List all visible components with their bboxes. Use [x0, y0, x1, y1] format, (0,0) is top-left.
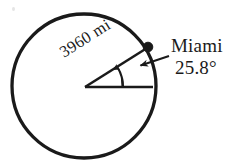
- angle-measure-label: 25.8°: [175, 58, 217, 77]
- geometry-figure: 3960 mi Miami 25.8°: [0, 0, 250, 165]
- angle-arc-stem: [122, 78, 123, 87]
- miami-label: Miami: [171, 36, 223, 55]
- miami-point-marker: [143, 42, 153, 52]
- radius-line: [85, 48, 147, 87]
- scan-speck: [12, 7, 15, 11]
- figure-canvas: [0, 0, 250, 165]
- miami-leader-line: [141, 56, 170, 66]
